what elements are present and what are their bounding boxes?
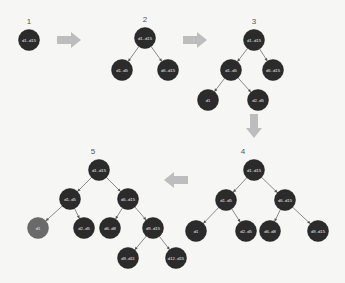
node-label: d1..d15 (247, 38, 262, 43)
arrow-step2-to-3-icon (183, 32, 207, 48)
tree-node: d1..d5 (60, 189, 81, 210)
tree-node: d6..d8 (260, 221, 281, 242)
node-label: d6..d8 (104, 226, 116, 231)
node-label: d1..d5 (116, 68, 128, 73)
step-1: 1d1..d15 (19, 17, 40, 51)
arrow-step1-to-2-icon (57, 32, 81, 48)
node-label: d1..d15 (92, 168, 107, 173)
tree-node: d1..d5 (221, 60, 242, 81)
step-number: 2 (143, 15, 148, 24)
tree-node: d1..d5 (216, 190, 237, 211)
node-label: d6..d15 (278, 198, 293, 203)
node-label: d9..d11 (121, 256, 135, 261)
node-label: d2..d5 (252, 98, 264, 103)
tree-node: d1..d15 (244, 30, 265, 51)
step-number: 5 (91, 147, 96, 156)
tree-node: d1..d15 (244, 160, 265, 181)
tree-edge (77, 177, 91, 191)
tree-node: d1..d15 (135, 28, 156, 49)
node-label: d6..d8 (264, 229, 276, 234)
tree-node: d6..d8 (100, 218, 121, 239)
tree-node: d9..d15 (143, 218, 164, 239)
arrow-step3-to-4-icon (246, 114, 262, 138)
step-number: 4 (241, 147, 246, 156)
tree-node: d1 (198, 90, 219, 111)
step-5: 5d1..d15d1..d5d6..d15d1d2..d5d6..d8d9..d… (28, 147, 187, 269)
node-label: d1 (206, 98, 211, 103)
tree-node: d6..d15 (275, 190, 296, 211)
node-label: d1..d5 (220, 198, 232, 203)
node-label: d1 (194, 229, 199, 234)
tree-node: d9..d15 (308, 221, 329, 242)
tree-node: d12..d15 (166, 248, 187, 269)
node-label: d1 (36, 226, 41, 231)
node-label: d6..d15 (266, 68, 281, 73)
node-label: d12..d15 (168, 256, 185, 261)
tree-node: d9..d11 (118, 248, 139, 269)
node-label: d1..d15 (138, 36, 153, 41)
tree-construction-diagram: 1d1..d152d1..d15d1..d5d6..d153d1..d15d1.… (0, 0, 345, 283)
tree-node: d1..d5 (112, 60, 133, 81)
step-number: 1 (27, 17, 32, 26)
node-label: d6..d15 (161, 68, 176, 73)
tree-node: d1..d15 (19, 30, 40, 51)
node-label: d1..d15 (22, 38, 37, 43)
node-label: d9..d15 (146, 226, 161, 231)
tree-node: d1 (28, 218, 49, 239)
tree-node: d1..d15 (89, 160, 110, 181)
step-4: 4d1..d15d1..d5d6..d15d1d2..d5d6..d8d9..d… (186, 147, 329, 242)
tree-edge (293, 207, 311, 224)
node-label: d1..d5 (64, 197, 76, 202)
tree-node: d2..d5 (74, 218, 95, 239)
tree-node: d6..d15 (263, 60, 284, 81)
step-2: 2d1..d15d1..d5d6..d15 (112, 15, 179, 81)
step-arrows (57, 32, 262, 188)
tree-node: d6..d15 (158, 60, 179, 81)
tree-node: d2..d5 (248, 90, 269, 111)
node-label: d2..d5 (240, 229, 252, 234)
node-label: d1..d5 (225, 68, 237, 73)
steps: 1d1..d152d1..d15d1..d5d6..d153d1..d15d1.… (19, 15, 329, 269)
node-label: d6..d15 (121, 197, 136, 202)
tree-node: d2..d5 (236, 221, 257, 242)
arrow-step4-to-5-icon (164, 172, 188, 188)
step-number: 3 (252, 17, 257, 26)
node-label: d1..d15 (247, 168, 262, 173)
tree-node: d1 (186, 221, 207, 242)
tree-node: d6..d15 (118, 189, 139, 210)
tree-edge (262, 177, 278, 192)
tree-edge (46, 206, 62, 221)
step-3: 3d1..d15d1..d5d6..d15d1d2..d5 (198, 17, 284, 111)
tree-edge (203, 208, 218, 224)
tree-edge (233, 178, 247, 193)
tree-edge (106, 177, 120, 191)
node-label: d9..d15 (311, 229, 326, 234)
node-label: d2..d5 (78, 226, 90, 231)
